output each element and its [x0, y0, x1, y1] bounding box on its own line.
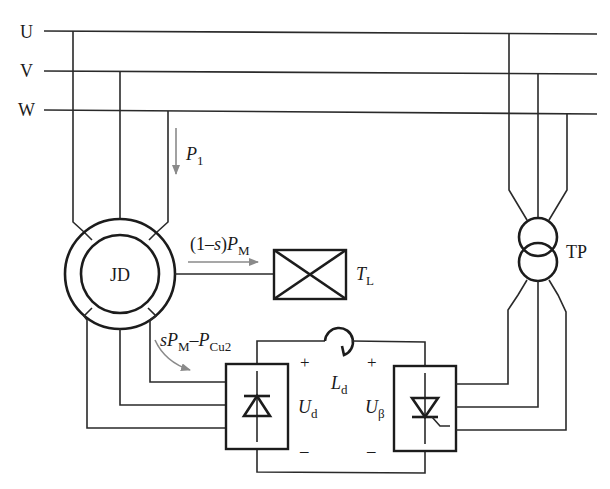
dc-link-top-left — [257, 341, 325, 364]
mechanical-power-flow: (1–s)PM — [188, 234, 258, 262]
rectifier-minus: – — [299, 441, 309, 460]
inverter-plus: + — [367, 353, 377, 372]
feeder-w — [149, 111, 168, 240]
load-label: TL — [356, 264, 374, 288]
induction-motor: JD — [65, 219, 175, 329]
rectifier-plus: + — [300, 353, 310, 372]
inverter-voltage-label: Uβ — [365, 397, 385, 421]
inverter: + – Uβ — [365, 353, 456, 460]
transformer-secondary-coil — [519, 243, 557, 281]
bus-line-v — [44, 71, 597, 74]
dc-link-top-right — [352, 341, 425, 366]
bus-line-w — [44, 110, 597, 114]
transformer-label: TP — [566, 242, 587, 262]
smoothing-inductor — [325, 328, 353, 355]
inductor-label: Ld — [330, 373, 348, 397]
bus-line-u — [44, 31, 597, 34]
tp-secondary-2 — [456, 281, 538, 407]
tp-secondary-1 — [456, 280, 527, 384]
cascade-speed-control-diagram: U V W P1 JD (1–s)PM TL — [0, 0, 610, 489]
mechanical-load: TL — [274, 250, 374, 299]
bus-label-v: V — [20, 61, 33, 81]
rectifier: + – Ud — [226, 353, 318, 460]
rectifier-voltage-label: Ud — [298, 397, 318, 421]
tp-feeder-w — [549, 113, 567, 220]
inverter-minus: – — [366, 441, 376, 460]
bus-label-w: W — [18, 100, 35, 120]
slip-power-label: sPM–PCu2 — [160, 330, 231, 354]
feeder-u — [73, 31, 92, 240]
bus-label-u: U — [20, 22, 33, 42]
motor-label: JD — [110, 265, 130, 285]
input-power-flow: P1 — [176, 128, 204, 174]
tp-feeder-u — [509, 33, 527, 220]
mechanical-power-label: (1–s)PM — [190, 234, 250, 258]
transformer: TP — [519, 218, 587, 281]
three-phase-bus: U V W — [18, 22, 597, 120]
motor-stator-feeders — [73, 31, 168, 240]
dc-link-bottom — [257, 449, 425, 473]
transformer-primary-feeders — [509, 33, 567, 220]
input-power-label: P1 — [185, 144, 204, 168]
transformer-secondary-leads — [456, 280, 566, 430]
slip-power-flow: sPM–PCu2 — [155, 330, 231, 370]
